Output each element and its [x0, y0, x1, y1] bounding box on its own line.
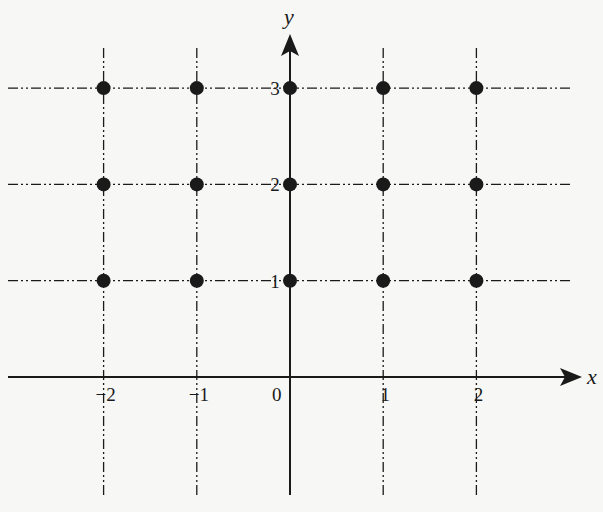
- diagram-svg: x y 0 −2−112123: [0, 0, 603, 512]
- lattice-point: [283, 177, 297, 191]
- y-tick-label: 3: [270, 78, 280, 99]
- lattice-point: [97, 274, 111, 288]
- y-axis-label: y: [282, 4, 294, 29]
- lattice-point: [469, 274, 483, 288]
- lattice-point: [469, 177, 483, 191]
- y-tick-label: 1: [270, 271, 280, 292]
- lattice-point: [190, 81, 204, 95]
- x-axis-label: x: [586, 364, 597, 389]
- x-tick-label: 1: [380, 384, 390, 405]
- lattice-point: [97, 177, 111, 191]
- lattice-point: [97, 81, 111, 95]
- lattice-point: [376, 274, 390, 288]
- x-tick-label: −2: [95, 384, 115, 405]
- lattice-point: [190, 274, 204, 288]
- x-tick-label: −1: [189, 384, 209, 405]
- lattice-point: [283, 81, 297, 95]
- x-tick-label: 2: [474, 384, 484, 405]
- lattice-point: [376, 81, 390, 95]
- lattice-point: [376, 177, 390, 191]
- lattice-point: [190, 177, 204, 191]
- origin-label: 0: [272, 384, 282, 405]
- y-tick-label: 2: [270, 174, 280, 195]
- coordinate-diagram: x y 0 −2−112123: [0, 0, 603, 512]
- lattice-point: [469, 81, 483, 95]
- lattice-point: [283, 274, 297, 288]
- axes: x y 0: [8, 4, 597, 495]
